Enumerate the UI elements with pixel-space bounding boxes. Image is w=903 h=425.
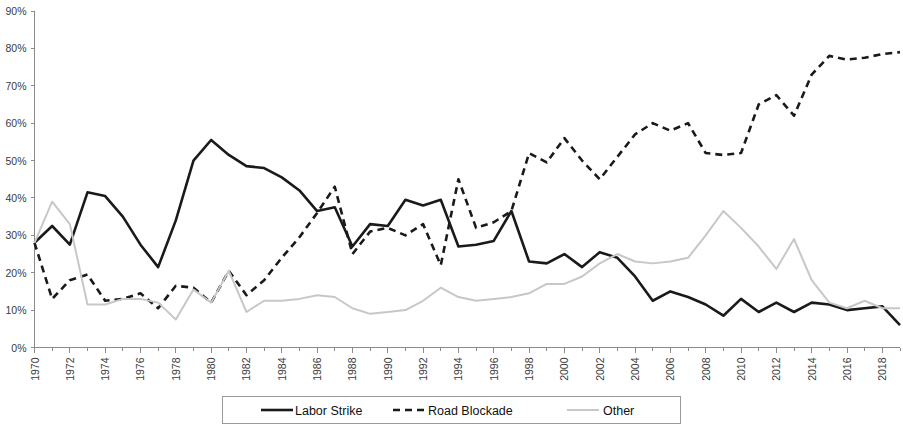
x-tick-label: 1992: [417, 357, 429, 381]
legend-label-labor-strike: Labor Strike: [295, 404, 362, 418]
series-line-road-blockade: [35, 52, 901, 308]
x-tick-label: 1984: [276, 357, 288, 381]
x-tick-label: 2012: [770, 357, 782, 381]
x-tick-label: 1996: [488, 357, 500, 381]
series-line-labor-strike: [35, 140, 901, 325]
x-tick-label: 2000: [558, 357, 570, 381]
x-tick-label: 2004: [629, 357, 641, 381]
y-tick-label: 0%: [11, 342, 26, 354]
chart-canvas: 0%10%20%30%40%50%60%70%80%90% 1970197219…: [0, 0, 903, 425]
x-tick-label: 1972: [64, 357, 76, 381]
x-tick-label: 1970: [29, 357, 41, 381]
series-lines: [35, 52, 901, 325]
x-tick-label: 1980: [205, 357, 217, 381]
x-axis: 1970197219741976197819801982198419861988…: [29, 348, 901, 381]
y-tick-label: 80%: [5, 42, 26, 54]
y-tick-label: 50%: [5, 155, 26, 167]
x-tick-label: 2016: [841, 357, 853, 381]
y-axis: 0%10%20%30%40%50%60%70%80%90%: [5, 5, 34, 354]
x-tick-label: 2002: [594, 357, 606, 381]
y-tick-label: 40%: [5, 192, 26, 204]
y-tick-label: 30%: [5, 229, 26, 241]
x-tick-label: 1994: [452, 357, 464, 381]
legend-label-other: Other: [603, 404, 634, 418]
chart-legend: Labor StrikeRoad BlockadeOther: [222, 396, 680, 423]
x-tick-label: 2018: [876, 357, 888, 381]
x-tick-label: 1978: [170, 357, 182, 381]
x-tick-label: 1988: [346, 357, 358, 381]
x-tick-label: 1974: [99, 357, 111, 381]
x-tick-label: 1986: [311, 357, 323, 381]
line-chart: 0%10%20%30%40%50%60%70%80%90% 1970197219…: [0, 0, 903, 425]
x-tick-label: 2006: [664, 357, 676, 381]
x-tick-label: 2014: [806, 357, 818, 381]
y-tick-label: 70%: [5, 80, 26, 92]
x-tick-label: 1982: [240, 357, 252, 381]
series-line-other: [35, 202, 901, 320]
x-tick-label: 1998: [523, 357, 535, 381]
y-tick-label: 10%: [5, 304, 26, 316]
x-tick-label: 1976: [134, 357, 146, 381]
y-tick-label: 60%: [5, 117, 26, 129]
x-tick-label: 2008: [700, 357, 712, 381]
x-tick-label: 1990: [382, 357, 394, 381]
y-tick-label: 20%: [5, 267, 26, 279]
legend-label-road-blockade: Road Blockade: [428, 404, 513, 418]
y-tick-label: 90%: [5, 5, 26, 17]
x-tick-label: 2010: [735, 357, 747, 381]
